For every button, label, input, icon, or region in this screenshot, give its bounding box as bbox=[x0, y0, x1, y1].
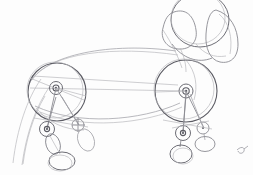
rear-near-hock-dot bbox=[46, 128, 48, 130]
dachshund-construction-sketch bbox=[0, 0, 253, 175]
paper-background bbox=[0, 0, 253, 175]
front-near-knee-dot bbox=[182, 132, 184, 134]
sketch-canvas bbox=[0, 0, 253, 175]
